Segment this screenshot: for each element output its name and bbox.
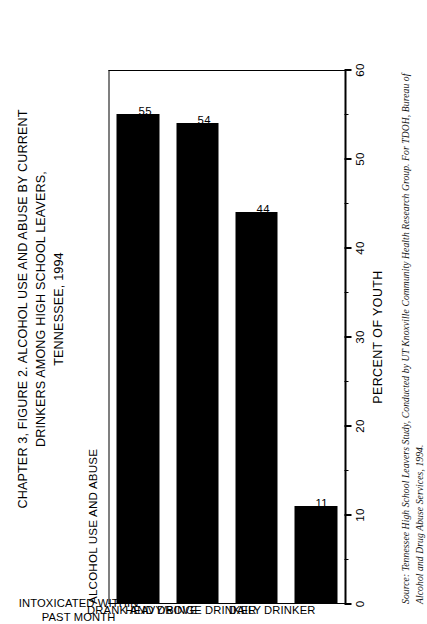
bar [176,123,219,604]
value-axis-tick-label: 0 [352,601,365,608]
category-label: DAILY DRINKER [229,603,316,617]
value-axis-tick-minor [344,470,348,471]
bar-value-label: 55 [138,106,151,118]
bar [235,212,278,604]
value-axis-title: PERCENT OF YOUTH [370,70,384,604]
figure-title: CHAPTER 3, FIGURE 2. ALCOHOL USE AND ABU… [14,0,68,618]
value-axis-tick-label: 50 [352,152,365,165]
value-axis-tick-label: 10 [352,508,365,521]
value-axis-tick-major [344,603,351,604]
source-note-line-1: Source: Tennessee High School Leavers St… [398,4,412,604]
value-axis-tick-major [344,247,351,248]
bar-value-label: 44 [256,203,269,215]
value-axis-tick-minor [344,559,348,560]
value-axis-tick-minor [344,381,348,382]
category-label-line: DAILY DRINKER [229,603,316,617]
value-axis-tick-major [344,336,351,337]
category-axis-title: ALCOHOL USE AND ABUSE [85,449,98,604]
value-axis-tick-major [344,514,351,515]
figure-title-line-2: DRINKERS AMONG HIGH SCHOOL LEAVERS, [32,0,50,618]
value-axis-tick-minor [344,203,348,204]
value-axis-tick-major [344,69,351,70]
value-axis-tick-minor [344,292,348,293]
value-axis-tick-label: 30 [352,330,365,343]
value-axis-tick-label: 60 [352,63,365,76]
bar [294,506,337,604]
bar [116,115,159,605]
bar-value-label: 54 [197,114,210,126]
source-note-line-2: Alcohol and Drug Abuse Services, 1994. [412,4,426,604]
figure-title-line-3: TENNESSEE, 1994 [50,0,68,618]
value-axis-tick-label: 40 [352,241,365,254]
value-axis-tick-major [344,158,351,159]
value-axis-tick-minor [344,114,348,115]
source-note: Source: Tennessee High School Leavers St… [398,4,427,604]
bar-value-label: 11 [315,497,327,509]
figure-title-line-1: CHAPTER 3, FIGURE 2. ALCOHOL USE AND ABU… [14,0,32,618]
value-axis-tick-major [344,425,351,426]
value-axis-tick-label: 20 [352,419,365,432]
